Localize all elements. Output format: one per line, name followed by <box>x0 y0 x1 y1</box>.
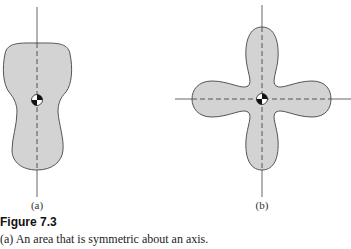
figure-caption: (a) An area that is symmetric about an a… <box>0 232 208 247</box>
centroid-icon <box>32 95 43 106</box>
centroid-icon <box>257 94 268 105</box>
panel-a <box>3 7 71 197</box>
panel-b <box>175 5 351 197</box>
panel-a-label: (a) <box>22 199 52 211</box>
figure-number: Figure 7.3 <box>0 215 57 229</box>
figure-diagram <box>0 0 351 205</box>
panel-b-label: (b) <box>247 199 277 211</box>
